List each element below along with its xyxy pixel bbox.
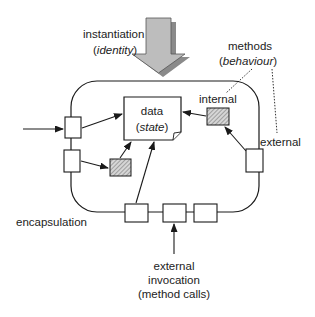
internal-label: internal [199,93,237,105]
external-method-bottom-3 [194,204,217,222]
behaviour-label: (behaviour) [219,55,277,67]
left1-to-data-arrow [82,114,122,128]
internal-method-left [110,159,131,176]
object-diagram: instantiation (identity) methods (behavi… [0,0,315,317]
external-method-bottom-1 [125,204,148,222]
data-state-box: data (state) [124,97,181,140]
invocation-label-line1: external [154,260,195,272]
methods-external-leader [272,69,277,133]
instantiation-label: instantiation [83,28,144,40]
internal-to-data-arrow [120,142,131,158]
left2-to-internal-arrow [81,161,108,168]
instantiation-arrow-icon [132,18,190,77]
external-method-left-1 [65,117,81,138]
external-method-right [246,149,263,172]
methods-label: methods [228,40,272,52]
invocation-label-line3: (method calls) [138,288,210,300]
invocation-label-line2: invocation [148,274,200,286]
external-method-left-2 [64,150,80,172]
identity-label: (identity) [93,44,137,56]
internal-right-to-data-arrow [183,112,206,116]
internal-method-right [207,108,229,125]
bottom1-to-data-arrow [136,142,154,203]
right-to-internal-arrow [225,127,246,151]
data-label: data [141,105,164,117]
external-label: external [260,136,301,148]
external-method-bottom-2 [163,204,186,222]
state-label: (state) [136,121,169,133]
encapsulation-label: encapsulation [16,216,87,228]
